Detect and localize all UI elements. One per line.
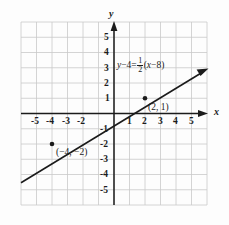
fraction-denominator: 2 <box>137 65 143 74</box>
y-tick-2: 2 <box>104 79 109 89</box>
y-tick-minus-1: -1 <box>100 125 108 135</box>
data-point-neg4-neg2 <box>50 142 55 147</box>
x-tick-minus-4: -4 <box>46 117 54 127</box>
equation-fraction-one-half: 1 2 <box>137 57 143 74</box>
point-label-neg4-neg2: (−4, −2) <box>56 148 87 158</box>
y-tick-minus-3: -3 <box>100 155 108 165</box>
fraction-numerator: 1 <box>137 57 143 65</box>
x-tick-minus-2: -2 <box>77 117 85 127</box>
coordinate-plane-svg <box>0 0 229 225</box>
y-tick-3: 3 <box>104 64 109 74</box>
y-axis-label: y <box>109 9 113 19</box>
y-tick-minus-4: -4 <box>100 170 108 180</box>
equation-paren-close: ) <box>161 61 164 71</box>
x-tick-minus-3: -3 <box>62 117 70 127</box>
y-tick-1: 1 <box>105 94 110 104</box>
x-tick-1: 1 <box>127 117 132 127</box>
x-tick-4: 4 <box>173 117 178 127</box>
graph-figure: x y -5 -4 -3 -2 1 2 3 4 5 5 4 3 2 1 -1 -… <box>0 0 229 225</box>
y-tick-minus-5: -5 <box>100 186 108 196</box>
point-label-2-1: (2, 1) <box>148 103 169 113</box>
y-tick-4: 4 <box>104 48 109 58</box>
y-tick-minus-2: -2 <box>100 140 108 150</box>
y-tick-5: 5 <box>104 33 109 43</box>
x-tick-3: 3 <box>158 117 163 127</box>
equation-annotation: y − 4 = 1 2 ( x − 8 ) <box>117 57 164 74</box>
data-point-2-1 <box>143 96 148 101</box>
equation-equals: = <box>131 61 136 71</box>
x-axis-label: x <box>214 107 219 117</box>
x-tick-5: 5 <box>189 117 194 127</box>
x-tick-minus-5: -5 <box>31 117 39 127</box>
x-tick-2: 2 <box>142 117 147 127</box>
